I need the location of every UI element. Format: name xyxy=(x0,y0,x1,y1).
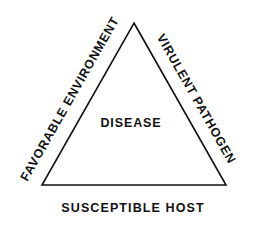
disease-triangle-diagram: DISEASE FAVORABLE ENVIRONMENT VIRULENT P… xyxy=(0,0,256,226)
triangle-outline-graphic xyxy=(0,0,256,226)
side-label-susceptible-host: SUSCEPTIBLE HOST xyxy=(61,202,204,215)
center-label-disease: DISEASE xyxy=(100,117,161,130)
